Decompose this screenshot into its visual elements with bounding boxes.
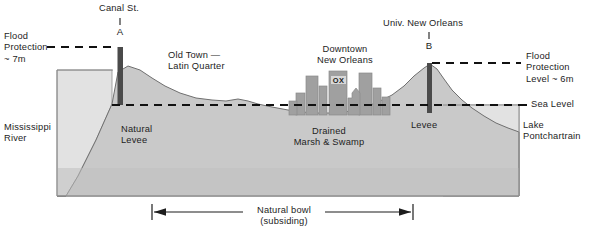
deep-strata-band <box>57 168 519 196</box>
natural-bowl-label: Natural bowl <box>243 205 325 216</box>
sea-level-label: Sea Level <box>531 99 574 110</box>
downtown-label: Downtown New Orleans <box>302 44 388 67</box>
cross-section-diagram: Flood Protection ~ 7m Canal St. A Old To… <box>0 0 595 230</box>
marker-b-label: B <box>422 40 436 51</box>
natural-bowl-subsiding-label: (subsiding) <box>243 216 325 227</box>
lake-pontchartrain-label: Lake Pontchartrain <box>523 120 581 143</box>
flood-protection-right-label: Flood Protection Level ~ 6m <box>526 51 574 85</box>
bowl-arrowhead-right <box>399 208 411 216</box>
old-town-label: Old Town — Latin Quarter <box>168 50 225 73</box>
university-new-orleans-label: Univ. New Orleans <box>383 18 463 29</box>
building-6 <box>359 73 372 115</box>
building-peaked-roof <box>348 88 360 115</box>
bowl-arrowhead-left <box>154 208 166 216</box>
flood-protection-left-label: Flood Protection ~ 7m <box>4 31 48 65</box>
cross-section-graphic <box>0 0 595 230</box>
mississippi-river-label: Mississippi River <box>4 122 51 145</box>
drained-marsh-label: Drained Marsh & Swamp <box>271 126 387 149</box>
building-2 <box>306 76 318 115</box>
natural-levee-label: Natural Levee <box>121 124 152 147</box>
canal-street-label: Canal St. <box>99 3 139 14</box>
building-7 <box>373 88 381 115</box>
building-sign-label: OX <box>331 75 346 86</box>
marker-a-label: A <box>113 26 127 37</box>
building-9 <box>289 101 297 115</box>
levee-bar-canal-street <box>118 47 124 105</box>
building-3 <box>319 86 327 115</box>
levee-right-label: Levee <box>411 120 437 131</box>
